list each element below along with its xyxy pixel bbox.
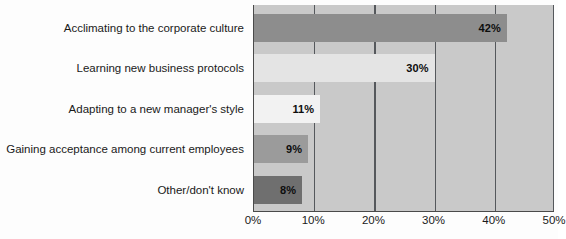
category-label: Adapting to a new manager's style xyxy=(0,103,244,116)
x-tick-label: 30% xyxy=(422,214,445,226)
bar-2: 11% xyxy=(254,95,320,123)
x-tick-label: 20% xyxy=(362,214,385,226)
bar-0: 42% xyxy=(254,14,507,42)
gridline-50 xyxy=(553,5,554,211)
x-axis-tick-labels: 0% 10% 20% 30% 40% 50% xyxy=(253,214,554,236)
bar-value-label: 8% xyxy=(280,184,296,196)
category-label: Acclimating to the corporate culture xyxy=(0,22,244,35)
bar-4: 8% xyxy=(254,176,302,204)
plot-area: 42% 30% 11% 9% 8% xyxy=(253,5,554,212)
bar-3: 9% xyxy=(254,135,308,163)
x-tick-label: 0% xyxy=(245,214,262,226)
x-tick-label: 50% xyxy=(542,214,565,226)
x-tick-label: 40% xyxy=(482,214,505,226)
x-tick-label: 10% xyxy=(302,214,325,226)
category-label: Other/don't know xyxy=(0,184,244,197)
bar-value-label: 30% xyxy=(406,62,428,74)
bar-value-label: 11% xyxy=(292,103,314,115)
bar-value-label: 42% xyxy=(478,22,500,34)
category-label: Gaining acceptance among current employe… xyxy=(0,143,244,156)
category-label: Learning new business protocols xyxy=(0,62,244,75)
bar-1: 30% xyxy=(254,54,435,82)
category-axis-labels: Acclimating to the corporate culture Lea… xyxy=(0,5,250,212)
bar-value-label: 9% xyxy=(286,143,302,155)
